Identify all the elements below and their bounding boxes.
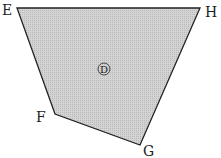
region-label-text: D [100,64,108,75]
quadrilateral-diagram: D E H F G [0,0,221,158]
vertex-label-e: E [2,2,12,18]
vertex-label-g: G [143,143,154,158]
vertex-label-f: F [36,109,46,125]
vertex-label-h: H [205,4,217,20]
